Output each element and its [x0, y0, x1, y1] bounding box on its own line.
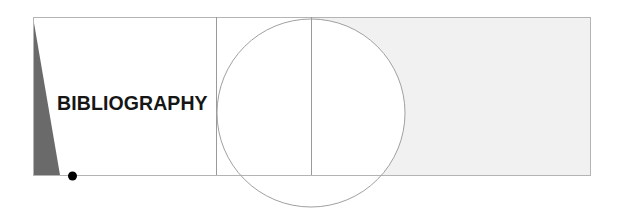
triangle-wedge — [33, 17, 60, 175]
dot-marker — [68, 172, 77, 181]
shaded-panel — [311, 17, 591, 175]
diagram-title: BIBLIOGRAPHY — [57, 92, 208, 115]
